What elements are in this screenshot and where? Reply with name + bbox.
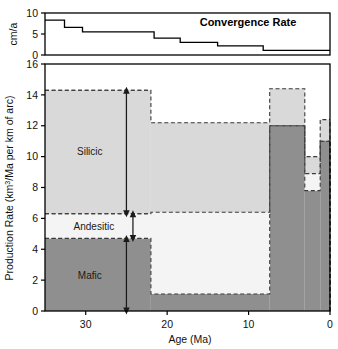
convergence-rate-panel: 0510 Convergence Rate cm/a	[7, 7, 330, 61]
convergence-panel-title: Convergence Rate	[200, 16, 297, 28]
production-x-ticklabel: 10	[243, 318, 255, 330]
production-area-mafic	[151, 294, 270, 311]
production-area-silicic	[305, 157, 320, 174]
production-series-label-mafic: Mafic	[78, 270, 102, 281]
production-area-mafic	[320, 141, 330, 311]
convergence-y-axis-label: cm/a	[7, 22, 19, 45]
production-area-mafic	[305, 191, 320, 311]
production-area-silicic	[320, 120, 330, 142]
production-y-ticklabel: 14	[26, 89, 38, 101]
production-y-axis-label: Production Rate (km3/Ma per km of arc)	[3, 96, 15, 281]
production-area-andesitic	[151, 212, 270, 294]
production-x-ticklabel: 20	[161, 318, 173, 330]
production-rate-panel: SilicicAndesiticMafic 0246810121416 3020…	[3, 58, 333, 345]
production-y-ticklabel: 16	[26, 58, 38, 70]
convergence-y-ticklabel: 10	[26, 7, 38, 19]
production-x-ticklabel: 30	[80, 318, 92, 330]
convergence-y-ticklabel: 5	[32, 28, 38, 40]
figure-root: 0510 Convergence Rate cm/a SilicicAndesi…	[0, 0, 338, 349]
production-area-silicic	[151, 123, 270, 213]
production-area-mafic	[270, 126, 305, 311]
production-y-ticklabel: 0	[32, 305, 38, 317]
production-y-ticklabel: 10	[26, 150, 38, 162]
production-x-axis-label: Age (Ma)	[168, 333, 211, 345]
production-y-ticklabel: 12	[26, 119, 38, 131]
production-area-silicic	[270, 89, 305, 126]
production-area-andesitic	[305, 174, 320, 191]
production-y-ticklabel: 4	[32, 243, 38, 255]
production-series-label-silicic: Silicic	[77, 146, 103, 157]
production-x-ticklabel: 0	[327, 318, 333, 330]
production-series-label-andesitic: Andesitic	[74, 221, 115, 232]
production-y-ticklabel: 8	[32, 181, 38, 193]
production-y-ticklabel: 6	[32, 212, 38, 224]
production-y-ticklabel: 2	[32, 274, 38, 286]
